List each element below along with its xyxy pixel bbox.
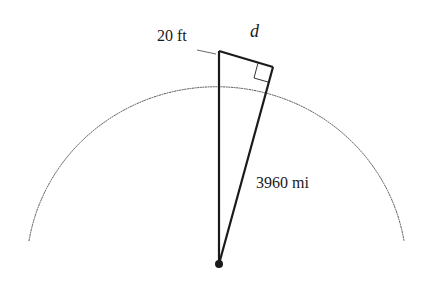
- radius-label: 3960 mi: [256, 174, 309, 192]
- distance-label: d: [250, 21, 259, 42]
- radius-line: [219, 67, 273, 264]
- diagram-canvas: [0, 0, 430, 300]
- tangent-line-d: [219, 51, 273, 67]
- height-label: 20 ft: [157, 27, 187, 45]
- earth-arc: [29, 87, 404, 241]
- center-point: [215, 260, 223, 268]
- height-leader-line: [197, 50, 216, 54]
